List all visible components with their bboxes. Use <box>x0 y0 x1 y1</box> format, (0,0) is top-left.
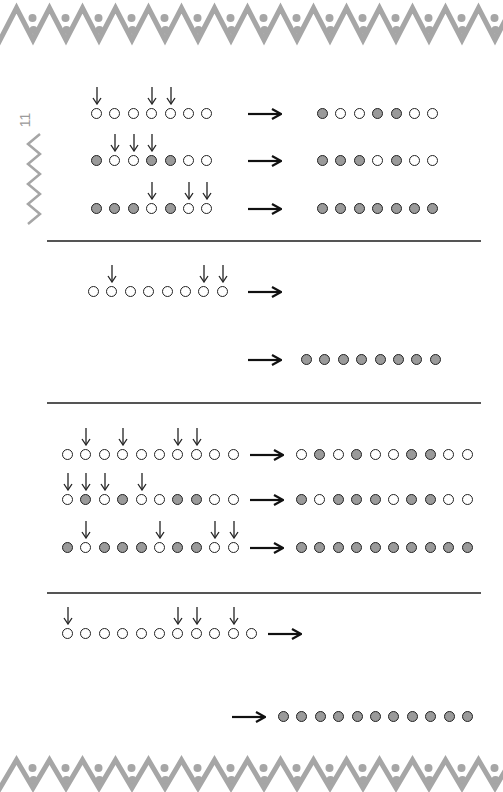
down-arrow-icon <box>118 428 128 446</box>
input-empty-circle <box>209 628 220 639</box>
input-empty-circle <box>198 286 209 297</box>
output-filled-circle <box>409 203 420 214</box>
input-empty-circle <box>180 286 191 297</box>
output-filled-circle <box>375 354 386 365</box>
output-filled-circle <box>314 542 325 553</box>
output-filled-circle <box>317 155 328 166</box>
input-empty-circle <box>209 542 220 553</box>
output-filled-circle <box>333 542 344 553</box>
output-filled-circle <box>462 711 473 722</box>
section-divider <box>47 592 481 594</box>
input-empty-circle <box>146 203 157 214</box>
down-arrow-icon <box>229 521 239 539</box>
section-divider <box>47 402 481 404</box>
output-filled-circle <box>406 494 417 505</box>
down-arrow-icon <box>147 182 157 200</box>
input-empty-circle <box>172 628 183 639</box>
input-empty-circle <box>62 449 73 460</box>
down-arrow-icon <box>92 87 102 105</box>
down-arrow-icon <box>81 473 91 491</box>
input-empty-circle <box>172 449 183 460</box>
output-filled-circle <box>372 203 383 214</box>
output-filled-circle <box>443 542 454 553</box>
input-empty-circle <box>154 449 165 460</box>
input-filled-circle <box>91 155 102 166</box>
output-filled-circle <box>406 542 417 553</box>
input-filled-circle <box>165 203 176 214</box>
output-filled-circle <box>427 203 438 214</box>
output-filled-circle <box>462 542 473 553</box>
down-arrow-icon <box>129 134 139 152</box>
down-arrow-icon <box>210 521 220 539</box>
output-filled-circle <box>333 711 344 722</box>
output-filled-circle <box>406 449 417 460</box>
input-empty-circle <box>228 449 239 460</box>
input-empty-circle <box>228 494 239 505</box>
output-filled-circle <box>319 354 330 365</box>
input-filled-circle <box>117 542 128 553</box>
down-arrow-icon <box>110 134 120 152</box>
zigzag-border-bottom <box>0 744 503 792</box>
input-empty-circle <box>136 449 147 460</box>
input-empty-circle <box>136 494 147 505</box>
output-empty-circle <box>427 155 438 166</box>
down-arrow-icon <box>166 87 176 105</box>
down-arrow-icon <box>107 265 117 283</box>
down-arrow-icon <box>229 607 239 625</box>
page-number: 11 <box>17 113 33 128</box>
input-empty-circle <box>99 628 110 639</box>
output-filled-circle <box>351 449 362 460</box>
output-empty-circle <box>296 449 307 460</box>
input-empty-circle <box>183 155 194 166</box>
input-empty-circle <box>191 628 202 639</box>
input-empty-circle <box>162 286 173 297</box>
input-empty-circle <box>125 286 136 297</box>
input-filled-circle <box>165 155 176 166</box>
input-empty-circle <box>117 449 128 460</box>
input-empty-circle <box>109 155 120 166</box>
output-empty-circle <box>443 494 454 505</box>
output-empty-circle <box>335 108 346 119</box>
output-filled-circle <box>430 354 441 365</box>
input-empty-circle <box>128 108 139 119</box>
input-filled-circle <box>80 494 91 505</box>
right-arrow-icon <box>268 628 302 640</box>
output-filled-circle <box>407 711 418 722</box>
output-filled-circle <box>391 108 402 119</box>
input-empty-circle <box>80 449 91 460</box>
output-filled-circle <box>411 354 422 365</box>
input-empty-circle <box>143 286 154 297</box>
down-arrow-icon <box>147 134 157 152</box>
down-arrow-icon <box>218 265 228 283</box>
input-empty-circle <box>217 286 228 297</box>
output-empty-circle <box>372 155 383 166</box>
output-empty-circle <box>354 108 365 119</box>
output-filled-circle <box>317 108 328 119</box>
input-empty-circle <box>80 542 91 553</box>
down-arrow-icon <box>199 265 209 283</box>
down-arrow-icon <box>81 521 91 539</box>
output-filled-circle <box>370 494 381 505</box>
right-arrow-icon <box>248 286 282 298</box>
output-empty-circle <box>462 449 473 460</box>
output-empty-circle <box>314 494 325 505</box>
output-empty-circle <box>370 449 381 460</box>
input-empty-circle <box>99 494 110 505</box>
output-filled-circle <box>356 354 367 365</box>
input-empty-circle <box>62 628 73 639</box>
input-empty-circle <box>136 628 147 639</box>
input-empty-circle <box>154 494 165 505</box>
input-empty-circle <box>146 108 157 119</box>
input-filled-circle <box>172 542 183 553</box>
down-arrow-icon <box>173 428 183 446</box>
input-empty-circle <box>91 108 102 119</box>
input-filled-circle <box>128 203 139 214</box>
input-empty-circle <box>62 494 73 505</box>
input-empty-circle <box>209 449 220 460</box>
input-filled-circle <box>117 494 128 505</box>
output-filled-circle <box>335 155 346 166</box>
output-filled-circle <box>372 108 383 119</box>
down-arrow-icon <box>202 182 212 200</box>
output-filled-circle <box>315 711 326 722</box>
output-empty-circle <box>409 155 420 166</box>
